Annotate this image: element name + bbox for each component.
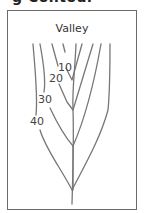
contour-diagram: 10 20 30 40 (0, 0, 144, 213)
contour-label-40: 40 (30, 115, 44, 128)
contour-label-20: 20 (49, 72, 63, 85)
contour-label-30: 30 (38, 93, 52, 106)
